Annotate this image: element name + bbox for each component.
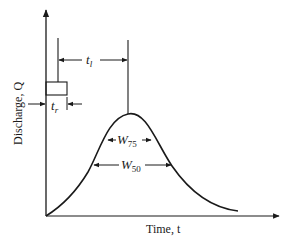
x-axis-label: Time, t: [146, 222, 181, 236]
rainfall-block: [46, 82, 67, 95]
hydrograph-curve: [46, 114, 238, 216]
duration-label: tr: [51, 98, 59, 115]
y-axis-label: Discharge, Q: [11, 82, 25, 145]
w50-label: W50: [121, 157, 141, 174]
w75-label: W75: [117, 132, 137, 149]
lag-time-label: tl: [86, 52, 93, 69]
hydrograph-diagram: tl tr W75 W50 Discharge, Q Time, t: [0, 0, 292, 244]
